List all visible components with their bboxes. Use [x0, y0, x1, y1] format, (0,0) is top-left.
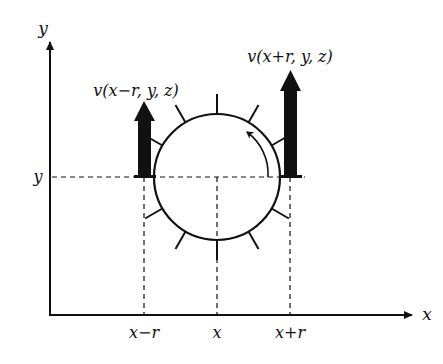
x-plus-r-tick-label: x+r	[275, 323, 306, 342]
rotating-sphere-diagram: y x y x−r x x+r v(x−r, y, z) v(x+r, y, z…	[0, 0, 443, 364]
right-velocity-arrow	[280, 70, 302, 178]
x-tick-label: x	[212, 323, 221, 342]
right-velocity-label: v(x+r, y, z)	[247, 47, 333, 66]
rotation-arrow-icon	[247, 132, 268, 177]
left-velocity-label: v(x−r, y, z)	[93, 81, 179, 100]
y-axis-label: y	[37, 18, 48, 38]
diagram-svg: y x y x−r x x+r v(x−r, y, z) v(x+r, y, z…	[0, 0, 443, 364]
x-minus-r-tick-label: x−r	[129, 323, 160, 342]
y-tick-label: y	[32, 167, 43, 186]
x-axis-label: x	[422, 304, 432, 324]
